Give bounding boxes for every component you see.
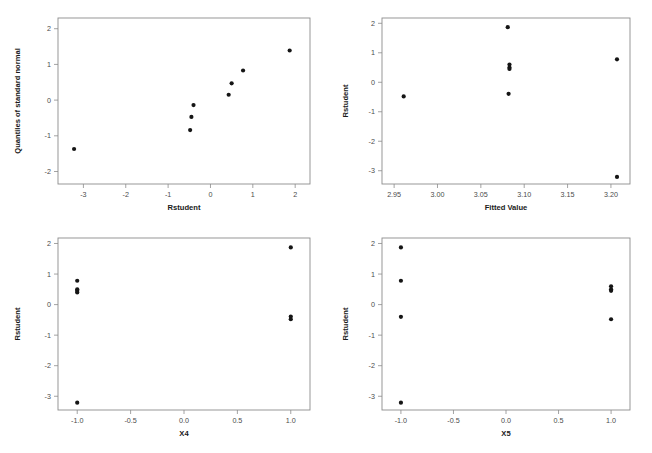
plot-frame	[58, 238, 310, 410]
x-tick-label: 0.5	[232, 416, 242, 425]
plot-frame	[382, 238, 630, 410]
data-point	[609, 317, 613, 321]
x-tick-label: 2	[293, 190, 297, 199]
data-point	[75, 401, 79, 405]
plot-frame	[58, 18, 310, 184]
data-point	[506, 25, 510, 29]
x-tick-label: -1.0	[395, 416, 407, 425]
y-tick-label: 1	[371, 270, 375, 279]
x-tick-label: 3.05	[474, 190, 488, 199]
data-points	[72, 48, 292, 151]
data-point	[72, 147, 76, 151]
data-point	[507, 92, 511, 96]
y-tick-label: 0	[47, 300, 51, 309]
x-tick-label: -1	[165, 190, 171, 199]
data-points	[75, 245, 293, 404]
y-tick-label: 1	[371, 48, 375, 57]
y-tick-label: -3	[45, 392, 51, 401]
y-tick-label: 2	[371, 19, 375, 28]
data-point	[289, 317, 293, 321]
y-tick-label: -2	[45, 361, 51, 370]
plot-frame	[382, 18, 630, 184]
x-axis-title: Rstudent	[168, 203, 201, 212]
data-point	[241, 68, 245, 72]
x-tick-label: -1.0	[71, 416, 83, 425]
y-axis-title: Rstudent	[341, 307, 350, 340]
x-tick-label: -2	[123, 190, 129, 199]
y-tick-label: -2	[45, 167, 51, 176]
data-point	[188, 128, 192, 132]
data-point	[230, 81, 234, 85]
x-axis-title: X5	[501, 429, 511, 438]
y-tick-label: -3	[369, 392, 375, 401]
panel-residuals-vs-fitted: 2.953.003.053.103.153.20210-1-2-3Fitted …	[330, 4, 652, 226]
x-tick-label: -3	[80, 190, 86, 199]
y-tick-label: -3	[369, 166, 375, 175]
y-tick-label: -1	[369, 107, 375, 116]
y-axis-title: Quantiles of standard normal	[13, 48, 22, 154]
panel-residuals-vs-x4: -1.0-0.50.00.51.0210-1-2-3X4Rstudent	[0, 226, 330, 453]
y-tick-label: 2	[47, 239, 51, 248]
data-point	[191, 103, 195, 107]
x-tick-label: 3.00	[430, 190, 444, 199]
x-tick-label: 1.0	[606, 416, 616, 425]
data-point	[189, 115, 193, 119]
data-point	[288, 48, 292, 52]
panel-normal-probability-plot: -3-2-1012210-1-2RstudentQuantiles of sta…	[0, 4, 330, 226]
y-tick-label: 0	[371, 300, 375, 309]
data-point	[227, 93, 231, 97]
data-point	[289, 245, 293, 249]
data-points	[399, 245, 613, 404]
x-tick-label: 3.15	[561, 190, 575, 199]
x-tick-label: 2.95	[387, 190, 401, 199]
x-tick-label: 1	[251, 190, 255, 199]
x-tick-label: -0.5	[447, 416, 459, 425]
y-tick-label: -2	[369, 361, 375, 370]
x-tick-label: 0.5	[554, 416, 564, 425]
x-axis-title: Fitted Value	[485, 203, 528, 212]
x-tick-label: 0	[208, 190, 212, 199]
y-tick-label: 1	[47, 60, 51, 69]
data-point	[399, 401, 403, 405]
y-tick-label: 0	[371, 78, 375, 87]
x-tick-label: 0.0	[179, 416, 189, 425]
data-point	[609, 289, 613, 293]
y-tick-label: 2	[371, 239, 375, 248]
panel-residuals-vs-x5: -1.0-0.50.00.51.0210-1-2-3X5Rstudent	[330, 226, 652, 453]
data-point	[615, 57, 619, 61]
y-tick-label: -1	[45, 331, 51, 340]
x-tick-label: 0.0	[501, 416, 511, 425]
x-axis-title: X4	[179, 429, 189, 438]
y-tick-label: 0	[47, 96, 51, 105]
data-points	[402, 25, 620, 179]
data-point	[402, 94, 406, 98]
x-tick-label: 3.20	[604, 190, 618, 199]
data-point	[399, 245, 403, 249]
data-point	[615, 175, 619, 179]
y-tick-label: 1	[47, 270, 51, 279]
diagnostic-plots-figure: -3-2-1012210-1-2RstudentQuantiles of sta…	[0, 0, 652, 453]
y-tick-label: -1	[45, 131, 51, 140]
x-tick-label: -0.5	[124, 416, 136, 425]
x-tick-label: 1.0	[286, 416, 296, 425]
data-point	[507, 67, 511, 71]
y-tick-label: -2	[369, 137, 375, 146]
x-tick-label: 3.10	[517, 190, 531, 199]
data-point	[75, 290, 79, 294]
y-axis-title: Rstudent	[341, 84, 350, 117]
data-point	[399, 315, 403, 319]
y-tick-label: -1	[369, 331, 375, 340]
data-point	[399, 279, 403, 283]
y-tick-label: 2	[47, 24, 51, 33]
y-axis-title: Rstudent	[13, 307, 22, 340]
data-point	[75, 279, 79, 283]
